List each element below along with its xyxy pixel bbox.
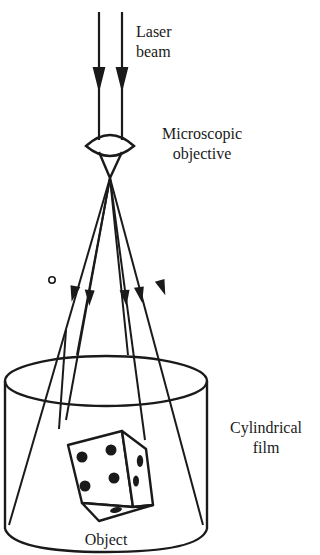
arrow-down-icon <box>117 68 127 88</box>
label-line: objective <box>142 144 262 164</box>
laser-beam <box>94 12 127 140</box>
label-line: Microscopic <box>142 124 262 144</box>
label-line: film <box>216 438 316 458</box>
microscopic-objective-lens <box>86 135 134 178</box>
laser-beam-label: Laser beam <box>136 22 172 62</box>
holography-setup-diagram <box>0 0 320 555</box>
label-line: beam <box>136 42 172 62</box>
microscopic-objective-label: Microscopic objective <box>142 124 262 164</box>
object-label: Object <box>66 530 146 550</box>
arrow-down-icon <box>94 68 104 88</box>
label-line: Laser <box>136 22 172 42</box>
cylindrical-film-label: Cylindrical film <box>216 418 316 458</box>
label-line: Cylindrical <box>216 418 316 438</box>
rays-inside-cylinder <box>59 330 66 429</box>
ray-arrowheads <box>49 277 169 307</box>
label-line: Object <box>66 530 146 550</box>
